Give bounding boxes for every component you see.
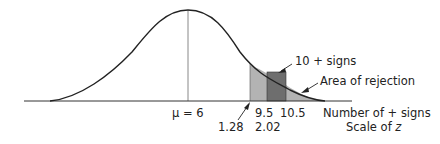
tick-z-1-28: 1.28	[218, 122, 244, 134]
axis-label-signs: Number of + signs	[323, 108, 431, 120]
axis-label-z-var: z	[395, 120, 401, 134]
annotation-ten-signs: 10 + signs	[295, 56, 356, 68]
mean-label: μ = 6	[172, 108, 204, 120]
tick-signs-9-5: 9.5	[255, 108, 273, 120]
tick-signs-10-5: 10.5	[280, 108, 306, 120]
tick-z-2-02: 2.02	[255, 122, 281, 134]
axis-label-z: Scale of z	[346, 122, 401, 134]
axis-label-z-prefix: Scale of	[346, 120, 395, 134]
annotation-area-of-rejection: Area of rejection	[320, 76, 415, 88]
